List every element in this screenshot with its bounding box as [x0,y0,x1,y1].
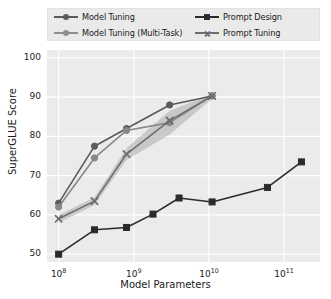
line-marker-circle-icon [54,12,78,22]
line-marker-cross-icon [195,28,219,38]
legend-item-model-tuning-multi-task[interactable]: Model Tuning (Multi-Task) [48,28,189,38]
line-marker-square-icon [195,12,219,22]
legend-label: Prompt Design [223,12,282,22]
legend-item-prompt-tuning[interactable]: Prompt Tuning [189,28,321,38]
y-axis-title: SuperGLUE Score [7,62,18,202]
plot-area [47,50,320,262]
x-axis-tick-label: 108 [39,267,79,279]
chart-figure: Model Tuning Prompt Design Model Tuning … [0,0,331,299]
plot-canvas [47,50,320,262]
x-axis-tick-label: 1010 [189,267,229,279]
legend-label: Model Tuning (Multi-Task) [82,28,182,38]
x-axis-tick-label: 1011 [264,267,304,279]
y-axis-tick-label: 60 [15,209,41,219]
legend-label: Prompt Tuning [223,28,280,38]
y-axis-tick-label: 100 [15,52,41,62]
line-marker-circle-icon [54,28,78,38]
y-axis-tick-label: 70 [15,170,41,180]
chart-legend: Model Tuning Prompt Design Model Tuning … [47,8,320,41]
y-axis-tick-label: 50 [15,248,41,258]
x-axis-tick-label: 109 [114,267,154,279]
legend-item-model-tuning[interactable]: Model Tuning [48,12,189,22]
legend-label: Model Tuning [82,12,135,22]
legend-item-prompt-design[interactable]: Prompt Design [189,12,321,22]
y-axis-tick-label: 80 [15,130,41,140]
x-axis-title: Model Parameters [0,279,331,290]
y-axis-tick-label: 90 [15,91,41,101]
